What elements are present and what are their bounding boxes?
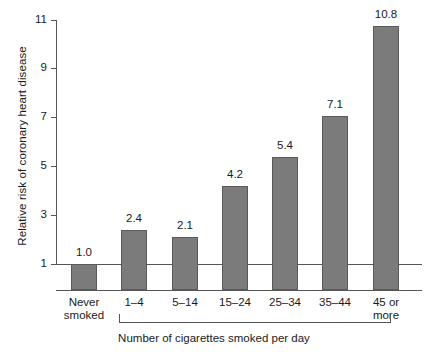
y-tick-mark: [51, 215, 56, 216]
bar-25-34: [272, 157, 298, 290]
category-label-1-4: 1–4: [109, 296, 159, 309]
y-tick-mark: [51, 117, 56, 118]
y-tick-mark: [51, 68, 56, 69]
bar-value-label: 4.2: [210, 169, 260, 181]
x-group-bracket-tick-right: [390, 314, 391, 323]
x-axis-title: Number of cigarettes smoked per day: [0, 332, 428, 344]
bar-5-14: [172, 237, 198, 290]
y-tick-label: 9: [27, 62, 47, 74]
category-label-never-smoked: Never smoked: [59, 296, 109, 322]
y-tick-label: 7: [27, 111, 47, 123]
y-axis-line: [56, 20, 57, 264]
bar-value-label: 7.1: [310, 99, 360, 111]
bar-35-44: [322, 116, 348, 290]
y-tick-label: 11: [27, 14, 47, 26]
category-label-15-24: 15–24: [210, 296, 260, 309]
x-axis-baseline: [56, 290, 422, 291]
category-label-35-44: 35–44: [310, 296, 360, 309]
bar-chart: Relative risk of coronary heart disease …: [0, 0, 428, 352]
y-tick-mark: [51, 20, 56, 21]
bar-value-label: 2.4: [109, 213, 159, 225]
x-group-bracket-tick-left: [119, 314, 120, 323]
y-tick-label: 1: [27, 258, 47, 270]
bar-1-4: [121, 230, 147, 290]
category-label-5-14: 5–14: [160, 296, 210, 309]
bar-value-label: 2.1: [160, 220, 210, 232]
bar-value-label: 5.4: [260, 140, 310, 152]
x-group-bracket: [119, 322, 391, 323]
bar-value-label: 1.0: [59, 247, 109, 259]
bar-15-24: [222, 186, 248, 290]
y-tick-mark: [51, 166, 56, 167]
category-label-45-or-more: 45 or more: [361, 296, 411, 322]
y-axis-title: Relative risk of coronary heart disease: [16, 16, 28, 276]
bar-never-smoked: [71, 264, 97, 290]
bar-45-or-more: [373, 26, 399, 290]
y-tick-label: 5: [27, 160, 47, 172]
y-tick-label: 3: [27, 209, 47, 221]
bar-value-label: 10.8: [361, 9, 411, 21]
category-label-25-34: 25–34: [260, 296, 310, 309]
